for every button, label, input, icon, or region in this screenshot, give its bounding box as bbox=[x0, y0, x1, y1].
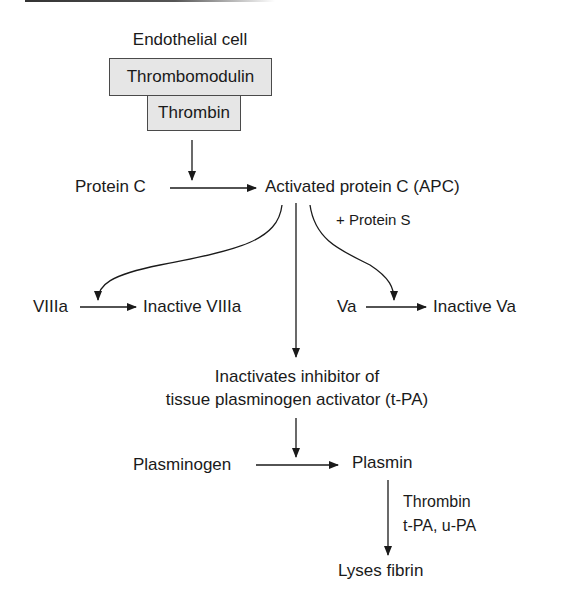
thrombin-box: Thrombin bbox=[147, 95, 241, 131]
activator-tpa-upa-label: t-PA, u-PA bbox=[403, 516, 476, 536]
effect-line-1: Inactivates inhibitor of bbox=[215, 367, 379, 387]
thrombomodulin-box: Thrombomodulin bbox=[109, 58, 272, 96]
apc-label: Activated protein C (APC) bbox=[265, 177, 460, 197]
arrow-apc-viiia bbox=[98, 205, 282, 300]
activator-thrombin-label: Thrombin bbox=[403, 492, 471, 512]
protein-s-label: + Protein S bbox=[336, 210, 411, 230]
lyses-fibrin-label: Lyses fibrin bbox=[338, 561, 423, 581]
protein-c-label: Protein C bbox=[75, 177, 146, 197]
effect-line-2: tissue plasminogen activator (t-PA) bbox=[166, 390, 428, 410]
inactive-va-label: Inactive Va bbox=[433, 297, 516, 317]
va-label: Va bbox=[337, 297, 357, 317]
plasmin-label: Plasmin bbox=[352, 453, 412, 473]
endothelial-cell-label: Endothelial cell bbox=[133, 30, 247, 50]
plasminogen-label: Plasminogen bbox=[133, 455, 231, 475]
thrombin-label: Thrombin bbox=[158, 103, 230, 123]
inactive-viiia-label: Inactive VIIIa bbox=[143, 297, 241, 317]
thrombomodulin-label: Thrombomodulin bbox=[127, 67, 255, 87]
viiia-label: VIIIa bbox=[33, 297, 68, 317]
